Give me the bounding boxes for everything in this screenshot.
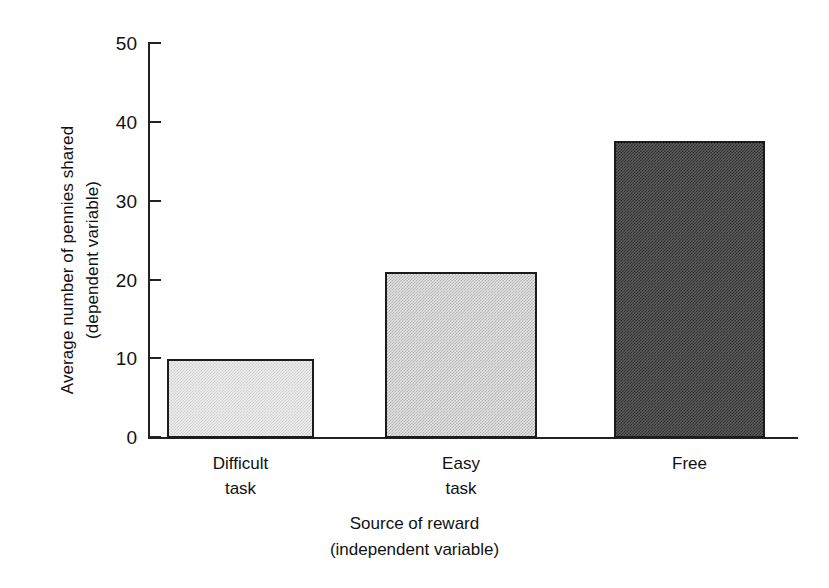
- bar-free[interactable]: [614, 141, 765, 438]
- y-tick-20: 20: [148, 279, 161, 281]
- x-category-label-easy-task-line2: task: [385, 476, 537, 501]
- y-tick-label-10: 10: [116, 349, 137, 368]
- y-tick-50: 50: [148, 42, 161, 44]
- x-category-label-free: Free: [614, 451, 765, 476]
- y-axis-title-line2: (dependent variable): [80, 65, 105, 455]
- y-axis-title-line1: Average number of pennies shared: [55, 65, 80, 455]
- bar-easy-task[interactable]: [385, 272, 537, 438]
- x-category-label-free-line1: Free: [614, 451, 765, 476]
- y-tick-10: 10: [148, 357, 161, 359]
- bar-chart-figure: Average number of pennies shared (depend…: [0, 0, 829, 588]
- y-tick-label-30: 30: [116, 192, 137, 211]
- y-tick-label-50: 50: [116, 34, 137, 53]
- x-category-label-difficult-task: Difficult task: [167, 451, 314, 501]
- x-category-label-easy-task-line1: Easy: [385, 451, 537, 476]
- y-tick-label-20: 20: [116, 271, 137, 290]
- x-category-label-easy-task: Easy task: [385, 451, 537, 501]
- x-axis-title-line2: (independent variable): [0, 537, 829, 563]
- x-category-label-difficult-task-line1: Difficult: [167, 451, 314, 476]
- y-tick-0: 0: [148, 436, 161, 438]
- x-category-label-difficult-task-line2: task: [167, 476, 314, 501]
- bar-difficult-task[interactable]: [167, 359, 314, 438]
- x-axis-title: Source of reward (independent variable): [0, 511, 829, 563]
- x-axis-title-line1: Source of reward: [0, 511, 829, 537]
- plot-area: 0 10 20 30 40 50: [148, 42, 798, 438]
- y-axis-line: [148, 42, 150, 438]
- y-tick-label-0: 0: [126, 428, 137, 447]
- y-axis-title: Average number of pennies shared (depend…: [55, 65, 105, 455]
- y-tick-30: 30: [148, 200, 161, 202]
- y-tick-40: 40: [148, 121, 161, 123]
- y-tick-label-40: 40: [116, 113, 137, 132]
